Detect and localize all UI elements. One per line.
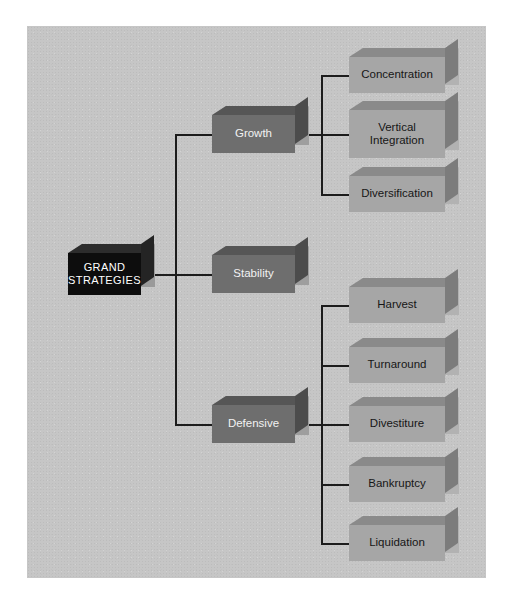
node-top-bevel — [349, 457, 459, 466]
node-body: Harvest — [349, 287, 445, 323]
node-turnaround[interactable]: Turnaround — [349, 347, 445, 383]
node-diversification[interactable]: Diversification — [349, 176, 445, 212]
connector-trunk-growth — [175, 134, 212, 136]
node-face: Concentration — [349, 57, 445, 93]
node-body: Liquidation — [349, 525, 445, 561]
node-label: Turnaround — [367, 358, 426, 372]
connector-defensive-liquidation — [321, 543, 350, 545]
node-face: Harvest — [349, 287, 445, 323]
node-top-bevel — [349, 278, 459, 287]
node-label-line2: Integration — [370, 134, 424, 146]
node-body: Growth — [212, 115, 295, 153]
node-face: Vertical Integration — [349, 110, 445, 158]
node-top-bevel — [349, 167, 459, 176]
connector-defensive-turnaround — [321, 365, 350, 367]
node-grand-strategies[interactable]: GRAND STRATEGIES — [68, 253, 141, 295]
node-body: Bankruptcy — [349, 466, 445, 502]
node-growth[interactable]: Growth — [212, 115, 295, 153]
node-defensive[interactable]: Defensive — [212, 405, 295, 443]
node-body: Stability — [212, 255, 295, 293]
node-body: Turnaround — [349, 347, 445, 383]
node-stability[interactable]: Stability — [212, 255, 295, 293]
node-bankruptcy[interactable]: Bankruptcy — [349, 466, 445, 502]
node-label: Divestiture — [370, 417, 424, 431]
node-concentration[interactable]: Concentration — [349, 57, 445, 93]
node-side-face — [445, 92, 458, 149]
node-face: Turnaround — [349, 347, 445, 383]
node-face: Divestiture — [349, 406, 445, 442]
node-body: Defensive — [212, 405, 295, 443]
node-top-bevel — [349, 48, 459, 57]
node-label: Defensive — [228, 417, 279, 431]
node-body: Concentration — [349, 57, 445, 93]
node-label: Concentration — [361, 68, 433, 82]
node-label: Harvest — [377, 298, 417, 312]
connector-trunk-defensive — [175, 424, 212, 426]
connector-growth-concentration — [321, 75, 350, 77]
node-top-bevel — [349, 397, 459, 406]
node-top-bevel — [349, 516, 459, 525]
node-face: Diversification — [349, 176, 445, 212]
node-face: Growth — [212, 115, 295, 153]
node-face: Liquidation — [349, 525, 445, 561]
node-label-line2: STRATEGIES — [68, 274, 141, 286]
diagram-canvas: GRAND STRATEGIES Growth Stability — [27, 26, 486, 578]
node-label: Liquidation — [369, 536, 425, 550]
node-vertical-integration[interactable]: Vertical Integration — [349, 110, 445, 158]
connector-defensive-bankruptcy — [321, 484, 350, 486]
node-label-line1: GRAND — [84, 261, 126, 273]
node-face: Stability — [212, 255, 295, 293]
node-harvest[interactable]: Harvest — [349, 287, 445, 323]
connector-trunk-stability — [175, 274, 212, 276]
node-liquidation[interactable]: Liquidation — [349, 525, 445, 561]
connector-defensive-harvest — [321, 305, 350, 307]
connector-main-trunk — [175, 134, 177, 424]
node-face: Defensive — [212, 405, 295, 443]
node-top-bevel — [349, 101, 459, 110]
node-top-bevel — [349, 338, 459, 347]
node-label-line1: Vertical — [378, 121, 416, 133]
node-body: Diversification — [349, 176, 445, 212]
node-label: Growth — [235, 127, 272, 141]
node-face: GRAND STRATEGIES — [68, 253, 141, 295]
connector-defensive-divestiture — [321, 424, 350, 426]
connector-growth-vertical-integration — [321, 134, 350, 136]
node-label: Bankruptcy — [368, 477, 426, 491]
node-label: Stability — [233, 267, 273, 281]
node-face: Bankruptcy — [349, 466, 445, 502]
node-body: GRAND STRATEGIES — [68, 253, 141, 295]
node-body: Divestiture — [349, 406, 445, 442]
node-label: Diversification — [361, 187, 433, 201]
connector-growth-diversification — [321, 194, 350, 196]
node-body: Vertical Integration — [349, 110, 445, 158]
node-divestiture[interactable]: Divestiture — [349, 406, 445, 442]
